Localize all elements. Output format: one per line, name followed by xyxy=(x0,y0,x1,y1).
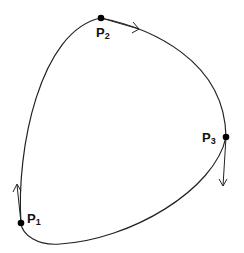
point-p1 xyxy=(18,220,25,227)
tangent-arrow-p3 xyxy=(219,137,227,186)
label-p1: P1 xyxy=(27,211,41,227)
point-p2 xyxy=(98,15,105,22)
label-p3: P3 xyxy=(202,130,216,146)
point-p3 xyxy=(223,134,230,141)
label-p2: P2 xyxy=(96,25,110,41)
curve-diagram: P1 P2 P3 xyxy=(0,0,244,253)
closed-curve xyxy=(20,18,226,244)
